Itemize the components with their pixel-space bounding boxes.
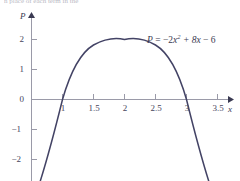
y-tick-label-0: 0 (8, 94, 24, 104)
y-tick-label-2: 2 (8, 34, 24, 44)
y-axis-title: P (20, 11, 26, 21)
y-tick-label-1: 1 (8, 64, 24, 74)
parabola-figure: n place of each term in the (0, 0, 240, 181)
x-tick-label-1: 1 (50, 103, 76, 113)
plot-canvas (0, 0, 240, 181)
equation-term2: + 8x (183, 35, 201, 45)
y-tick-label-neg2: −2 (5, 154, 21, 164)
x-tick-label-3-5: 3.5 (205, 103, 231, 113)
x-tick-label-2: 2 (112, 103, 138, 113)
x-axis-ticks (63, 94, 218, 100)
equation-term1-coefficient: −2 (163, 35, 173, 45)
y-tick-label-neg1: −1 (5, 124, 21, 134)
equation-annotation: P = −2x2 + 8x − 6 (147, 33, 216, 45)
equation-term3: − 6 (203, 35, 215, 45)
x-tick-label-1-5: 1.5 (81, 103, 107, 113)
x-tick-label-2-5: 2.5 (143, 103, 169, 113)
x-tick-label-3: 3 (174, 103, 200, 113)
y-axis (28, 12, 35, 181)
